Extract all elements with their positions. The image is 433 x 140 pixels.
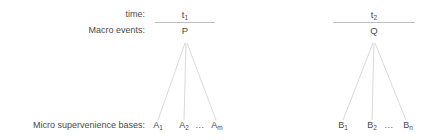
row-label-macro-events: Macro events: [88, 25, 145, 36]
row-label-micro-supervenience-bases: Micro supervenience bases: [33, 120, 145, 131]
micro-base-am-subscript: m [217, 124, 222, 131]
micro-base-b1-subscript: 1 [344, 124, 348, 131]
macro-event-q: Q [334, 25, 414, 36]
micro-base-bn-subscript: n [409, 124, 413, 131]
macro-event-p: P [145, 25, 225, 36]
connector-q-to-b2 [372, 43, 374, 120]
connector-p-to-am [187, 43, 216, 120]
micro-base-a2-subscript: 2 [185, 124, 189, 131]
supervenience-diagram: time: Macro events: Micro supervenience … [0, 0, 433, 140]
micro-base-am: Am [202, 120, 232, 131]
time-subscript-t2: 2 [374, 14, 378, 21]
micro-base-b1: B1 [328, 120, 358, 131]
column-time-label-t1: t1 [145, 9, 225, 20]
row-label-time: time: [125, 9, 145, 20]
micro-base-a1-subscript: 1 [159, 124, 163, 131]
connector-q-to-b1 [343, 43, 373, 120]
micro-base-bn: Bn [393, 120, 423, 131]
column-time-label-t2: t2 [334, 9, 414, 20]
connector-p-to-a1 [158, 43, 185, 120]
connector-p-to-a2 [184, 43, 186, 120]
connector-lines [0, 0, 433, 140]
micro-base-b2-subscript: 2 [373, 124, 377, 131]
column-rule-t1 [155, 22, 215, 23]
time-subscript-t1: 1 [185, 14, 189, 21]
connector-q-to-bn [375, 43, 406, 120]
column-rule-t2 [333, 22, 415, 23]
